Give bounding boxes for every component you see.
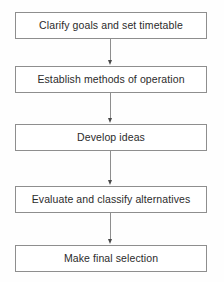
flowchart-diagram: Clarify goals and set timetable Establis… (0, 0, 224, 282)
arrow-down-icon (108, 180, 112, 185)
arrow-down-icon (108, 118, 112, 123)
flowchart-step-3-label: Develop ideas (77, 132, 145, 143)
flowchart-step-1-label: Clarify goals and set timetable (39, 20, 183, 31)
flowchart-step-4-label: Evaluate and classify alternatives (32, 194, 191, 205)
flowchart-step-2-label: Establish methods of operation (37, 74, 184, 85)
flowchart-step-4: Evaluate and classify alternatives (15, 186, 207, 213)
flowchart-step-3: Develop ideas (15, 124, 207, 151)
arrow-down-icon (108, 239, 112, 244)
flowchart-step-5: Make final selection (15, 245, 207, 272)
flowchart-connector-4 (110, 213, 111, 240)
arrow-down-icon (108, 60, 112, 65)
flowchart-step-5-label: Make final selection (64, 253, 158, 264)
flowchart-connector-3 (110, 151, 111, 181)
flowchart-step-2: Establish methods of operation (15, 66, 207, 93)
flowchart-connector-2 (110, 93, 111, 119)
flowchart-connector-1 (110, 39, 111, 61)
flowchart-step-1: Clarify goals and set timetable (15, 12, 207, 39)
